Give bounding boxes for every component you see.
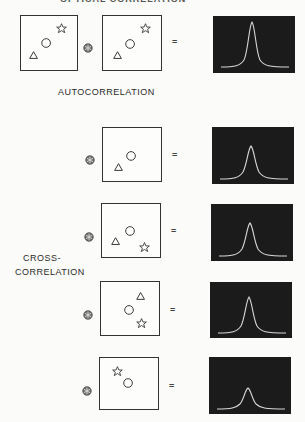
clipped-title: OPTICAL CORRELATION xyxy=(60,0,186,4)
equals-sign: = xyxy=(169,381,174,391)
correlation-operator-icon xyxy=(82,382,92,392)
autocorrelation-label: AUTOCORRELATION xyxy=(58,87,155,97)
equals-sign: = xyxy=(172,37,177,47)
cross-correlation-label-line1: CROSS- xyxy=(23,253,61,263)
triangle-shape xyxy=(114,52,122,59)
cross-correlation-label-line2: CORRELATION xyxy=(15,267,85,277)
triangle-shape xyxy=(115,164,123,171)
correlation-output-plot xyxy=(212,127,294,184)
input-scene-box xyxy=(99,357,159,410)
correlation-operator-icon xyxy=(83,39,93,49)
input-scene-box xyxy=(100,281,160,336)
triangle-shape xyxy=(30,52,38,59)
circle-shape xyxy=(42,39,51,48)
input-scene-box xyxy=(102,127,162,182)
triangle-shape xyxy=(137,293,145,300)
input-scene-box xyxy=(102,15,162,71)
circle-shape xyxy=(127,152,136,161)
star-shape xyxy=(57,24,67,33)
circle-shape xyxy=(126,227,135,236)
reference-scene-box xyxy=(20,15,78,71)
input-scene-box xyxy=(101,203,161,258)
star-shape xyxy=(113,367,123,376)
correlation-operator-icon xyxy=(84,228,94,238)
circle-shape xyxy=(125,306,134,315)
correlation-output-plot xyxy=(213,16,295,73)
star-shape xyxy=(140,243,150,252)
correlation-output-plot xyxy=(211,204,293,261)
correlation-operator-icon xyxy=(83,306,93,316)
correlation-output-plot xyxy=(210,282,292,338)
star-shape xyxy=(141,24,151,33)
triangle-shape xyxy=(112,238,120,245)
equals-sign: = xyxy=(170,305,175,315)
correlation-operator-icon xyxy=(85,151,95,161)
equals-sign: = xyxy=(171,226,176,236)
circle-shape xyxy=(124,379,133,388)
star-shape xyxy=(137,319,147,328)
circle-shape xyxy=(126,40,135,49)
correlation-output-plot xyxy=(209,357,291,414)
equals-sign: = xyxy=(172,150,177,160)
